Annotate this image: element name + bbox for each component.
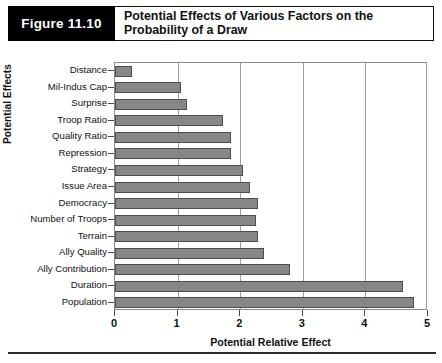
y-axis-tick-label: Democracy xyxy=(58,195,107,211)
bar-series xyxy=(115,63,426,309)
x-axis-tick xyxy=(239,310,240,316)
bar-row xyxy=(115,146,231,162)
x-axis-tick-label: 1 xyxy=(174,317,180,329)
bar-row xyxy=(115,196,258,212)
y-axis-tick-label: Number of Troops xyxy=(30,211,107,227)
bar-row xyxy=(115,262,290,278)
bar xyxy=(115,231,258,242)
y-axis-tick-label: Terrain xyxy=(78,228,107,244)
bar xyxy=(115,115,223,126)
bar xyxy=(115,248,264,259)
x-axis-tick-label: 3 xyxy=(299,317,305,329)
bottom-divider xyxy=(8,352,436,354)
x-axis-tick xyxy=(364,310,365,316)
bar xyxy=(115,66,132,77)
bar-row xyxy=(115,278,403,294)
plot-area xyxy=(114,62,427,310)
y-axis-tick-label: Troop Ratio xyxy=(57,112,107,128)
bar-row xyxy=(115,245,264,261)
x-axis-tick xyxy=(114,310,115,316)
y-axis-tick-label: Ally Contribution xyxy=(37,261,107,277)
bar-row xyxy=(115,63,132,79)
bar-row xyxy=(115,212,256,228)
bar xyxy=(115,132,231,143)
y-axis-tick-label: Quality Ratio xyxy=(52,128,107,144)
y-axis-tick-label: Issue Area xyxy=(62,178,107,194)
bar xyxy=(115,264,290,275)
x-axis-tick xyxy=(427,310,428,316)
y-axis-tick-label: Ally Quality xyxy=(59,244,107,260)
bar xyxy=(115,99,187,110)
figure-number-badge: Figure 11.10 xyxy=(8,6,115,41)
y-axis-tick-label: Strategy xyxy=(71,161,107,177)
bar-row xyxy=(115,229,258,245)
y-axis-tick-label: Repression xyxy=(58,145,107,161)
bar-row xyxy=(115,80,181,96)
y-axis-tick-label: Population xyxy=(62,294,107,310)
x-axis-tick-label: 0 xyxy=(111,317,117,329)
x-axis-tick xyxy=(302,310,303,316)
bar-row xyxy=(115,295,414,311)
bar xyxy=(115,297,414,308)
bar xyxy=(115,198,258,209)
y-axis-tick-label: Mil-Indus Cap xyxy=(48,79,107,95)
y-axis-tick-label: Duration xyxy=(71,277,107,293)
x-axis-tick xyxy=(177,310,178,316)
bar xyxy=(115,215,256,226)
bar xyxy=(115,165,243,176)
bar xyxy=(115,82,181,93)
y-axis-labels: DistanceMil-Indus CapSurpriseTroop Ratio… xyxy=(0,62,114,310)
x-axis-tick-label: 4 xyxy=(361,317,367,329)
bar-row xyxy=(115,162,243,178)
y-axis-tick-label: Surprise xyxy=(71,95,107,111)
bar-row xyxy=(115,129,231,145)
bar-row xyxy=(115,113,223,129)
y-axis-tick-label: Distance xyxy=(70,62,107,78)
chart: Potential Effects DistanceMil-Indus CapS… xyxy=(0,44,442,344)
bar xyxy=(115,148,231,159)
x-axis-title: Potential Relative Effect xyxy=(114,336,427,348)
x-axis-tick-label: 5 xyxy=(424,317,430,329)
figure-title-container: Potential Effects of Various Factors on … xyxy=(115,6,434,41)
bar xyxy=(115,281,403,292)
bar xyxy=(115,182,250,193)
bar-row xyxy=(115,96,187,112)
x-axis-tick-label: 2 xyxy=(236,317,242,329)
bar-row xyxy=(115,179,250,195)
figure-header: Figure 11.10 Potential Effects of Variou… xyxy=(8,6,434,41)
figure-title: Potential Effects of Various Factors on … xyxy=(124,10,425,38)
